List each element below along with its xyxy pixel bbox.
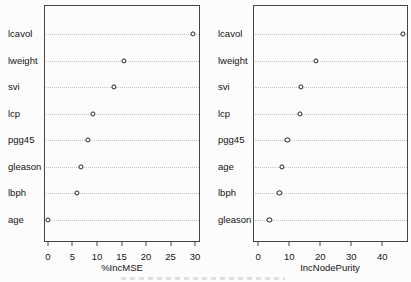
category-label: pgg45 [218,135,244,145]
gridline [46,220,199,221]
x-axis-tick-label: 20 [141,252,152,262]
category-label: svi [8,82,20,92]
category-label: lcp [8,109,20,119]
x-axis-tick [289,242,290,246]
category-label: lweight [8,56,38,66]
gridline [255,34,407,35]
category-label: age [8,215,24,225]
category-label: age [218,162,234,172]
x-axis-title-incmse: %IncMSE [101,263,143,273]
x-axis-tick-label: 25 [165,252,176,262]
gridline [255,61,407,62]
x-axis-tick [320,242,321,246]
x-axis-title-incnodepurity: IncNodePurity [300,263,360,273]
x-axis-tick [170,242,171,246]
category-label: lcavol [8,29,32,39]
plot-frame [253,5,408,242]
gridline [255,87,407,88]
gridline [46,140,199,141]
gridline [46,114,199,115]
category-label: gleason [218,215,251,225]
x-axis-tick [47,242,48,246]
category-label: gleason [8,162,41,172]
x-axis-tick [72,242,73,246]
category-label: lbph [218,188,236,198]
x-axis-tick [258,242,259,246]
gridline [255,220,407,221]
x-axis-tick-label: 30 [190,252,201,262]
x-axis-tick-label: 5 [70,252,75,262]
x-axis-tick [195,242,196,246]
gridline [46,34,199,35]
x-axis-tick [382,242,383,246]
category-label: pgg45 [8,135,34,145]
category-label: lweight [218,56,248,66]
gridline [46,87,199,88]
x-axis-tick-label: 10 [284,252,295,262]
gridline [46,167,199,168]
clipped-caption-remnant [121,277,285,280]
category-label: lcp [218,109,230,119]
gridline [255,114,407,115]
x-axis-tick-label: 30 [346,252,357,262]
x-axis-tick [351,242,352,246]
gridline [255,167,407,168]
x-axis-tick-label: 40 [377,252,388,262]
x-axis-tick [121,242,122,246]
category-label: lbph [8,188,26,198]
x-axis-tick-label: 20 [315,252,326,262]
x-axis-tick-label: 10 [92,252,103,262]
x-axis-tick [96,242,97,246]
gridline [46,193,199,194]
x-axis-tick [146,242,147,246]
category-label: svi [218,82,230,92]
varimp-plot-figure: %IncMSE IncNodePurity lcavollweightsvilc… [0,0,411,282]
x-axis-tick-label: 0 [45,252,50,262]
category-label: lcavol [218,29,242,39]
gridline [255,140,407,141]
plot-frame [44,5,200,242]
x-axis-tick-label: 0 [256,252,261,262]
x-axis-tick-label: 15 [116,252,127,262]
